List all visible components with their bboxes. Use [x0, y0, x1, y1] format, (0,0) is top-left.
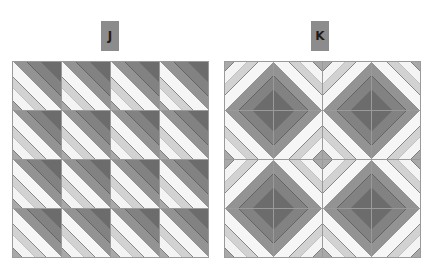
striped-tile: [372, 160, 420, 208]
striped-tile: [13, 160, 61, 208]
striped-tile: [225, 62, 273, 110]
striped-tile: [160, 209, 208, 257]
striped-tile: [62, 160, 110, 208]
panel-j-label: J: [101, 21, 119, 51]
striped-tile: [13, 62, 61, 110]
striped-tile: [160, 62, 208, 110]
striped-tile: [62, 209, 110, 257]
striped-tile: [111, 111, 159, 159]
striped-tile: [13, 209, 61, 257]
panel-j-label-text: J: [108, 29, 112, 43]
striped-tile: [111, 160, 159, 208]
panel-k-label-text: K: [315, 29, 324, 43]
striped-tile: [225, 160, 273, 208]
striped-tile: [225, 111, 273, 159]
striped-tile: [274, 111, 322, 159]
striped-tile: [13, 111, 61, 159]
striped-tile: [274, 62, 322, 110]
striped-tile: [323, 111, 371, 159]
striped-tile: [111, 62, 159, 110]
striped-tile: [274, 209, 322, 257]
striped-tile: [62, 62, 110, 110]
panel-k-tile-grid: [224, 61, 421, 258]
striped-tile: [111, 209, 159, 257]
panel-k-label: K: [311, 21, 329, 51]
striped-tile: [372, 62, 420, 110]
striped-tile: [62, 111, 110, 159]
striped-tile: [225, 209, 273, 257]
striped-tile: [323, 160, 371, 208]
striped-tile: [372, 111, 420, 159]
striped-tile: [323, 209, 371, 257]
striped-tile: [160, 111, 208, 159]
striped-tile: [372, 209, 420, 257]
striped-tile: [274, 160, 322, 208]
panel-j-tile-grid: [12, 61, 209, 258]
striped-tile: [323, 62, 371, 110]
striped-tile: [160, 160, 208, 208]
